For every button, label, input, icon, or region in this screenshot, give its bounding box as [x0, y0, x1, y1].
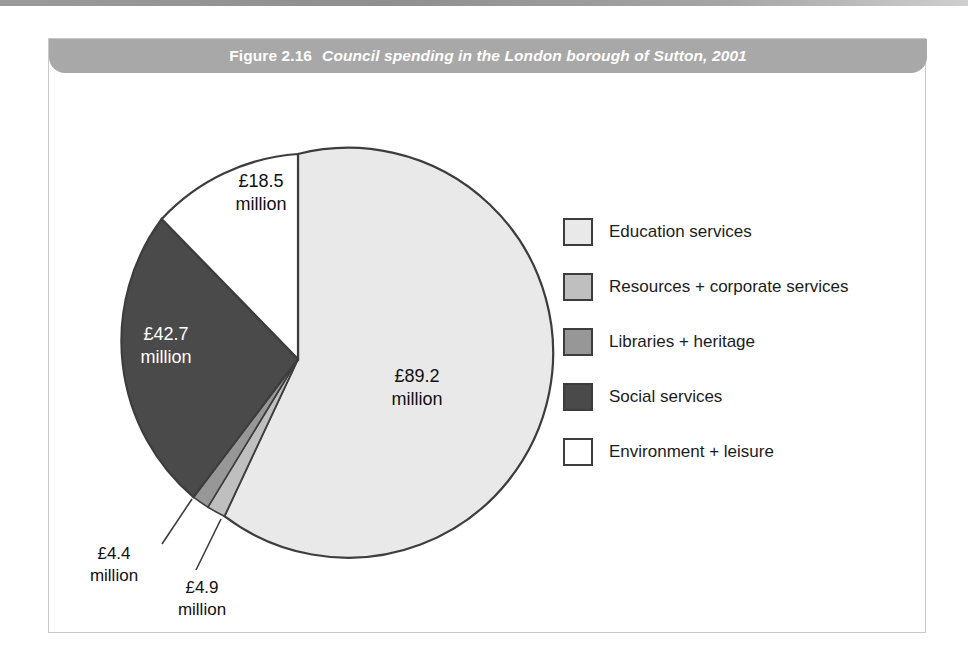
- legend-item-social[interactable]: Social services: [563, 383, 903, 411]
- figure-caption: Council spending in the London borough o…: [322, 47, 747, 64]
- pie-label-resources: £4.9 million: [147, 577, 257, 621]
- figure-number: Figure 2.16: [229, 47, 312, 64]
- legend-swatch-libraries: [563, 328, 593, 356]
- legend-label-social: Social services: [609, 387, 722, 407]
- legend-label-resources: Resources + corporate services: [609, 277, 849, 297]
- leader-line-libraries: [162, 499, 192, 544]
- legend-swatch-resources: [563, 273, 593, 301]
- legend-item-environment[interactable]: Environment + leisure: [563, 438, 903, 466]
- legend-item-education[interactable]: Education services: [563, 218, 903, 246]
- legend-swatch-environment: [563, 438, 593, 466]
- legend-item-resources[interactable]: Resources + corporate services: [563, 273, 903, 301]
- figure-title-bar: Figure 2.16Council spending in the Londo…: [49, 39, 927, 73]
- legend-item-libraries[interactable]: Libraries + heritage: [563, 328, 903, 356]
- pie-label-environment: £18.5 million: [201, 170, 321, 216]
- legend-label-libraries: Libraries + heritage: [609, 332, 755, 352]
- page-scan-artifact: [0, 0, 968, 6]
- chart-legend: Education services Resources + corporate…: [563, 218, 903, 493]
- legend-swatch-education: [563, 218, 593, 246]
- chart-area: £89.2 million £42.7 million £18.5 millio…: [49, 73, 925, 632]
- page-title: Figure 2.16Council spending in the Londo…: [229, 47, 747, 65]
- pie-label-education: £89.2 million: [357, 365, 477, 411]
- leader-line-resources: [196, 519, 221, 570]
- pie-label-social: £42.7 million: [106, 323, 226, 369]
- legend-label-education: Education services: [609, 222, 752, 242]
- legend-label-environment: Environment + leisure: [609, 442, 774, 462]
- legend-swatch-social: [563, 383, 593, 411]
- figure-container: Figure 2.16Council spending in the Londo…: [48, 38, 926, 633]
